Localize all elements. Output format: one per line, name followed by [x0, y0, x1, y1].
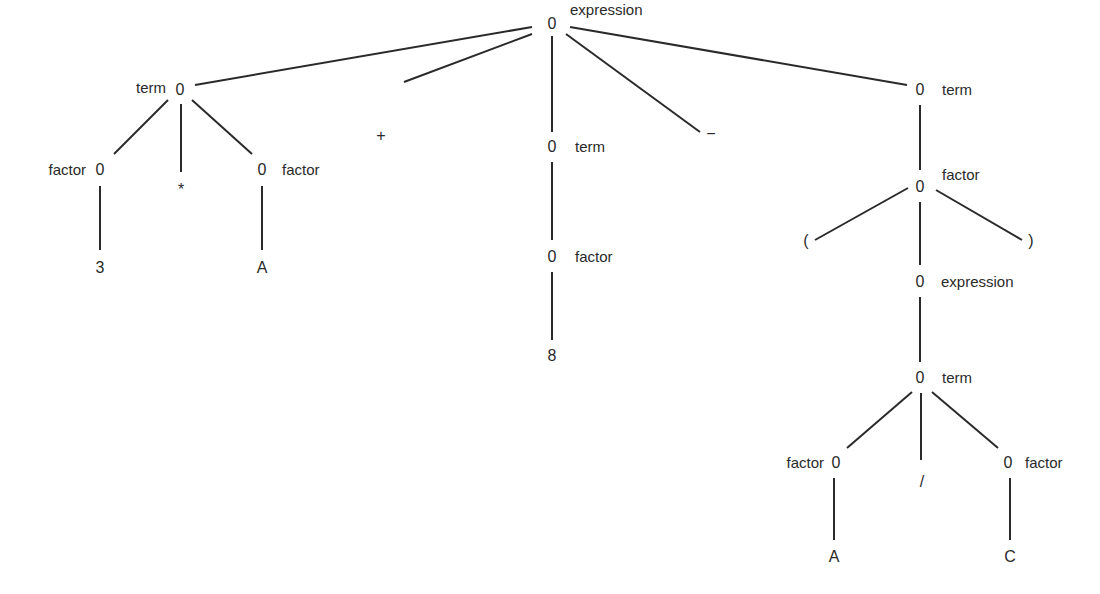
tree-node: 0: [916, 81, 925, 99]
tree-edge: [847, 392, 912, 448]
node-category-label: factor: [575, 248, 613, 266]
node-category-label: factor: [282, 161, 320, 179]
tree-edge: [932, 392, 998, 448]
tree-node: 0: [548, 15, 557, 33]
tree-node: 0: [916, 369, 925, 387]
leaf-token: 8: [548, 347, 557, 365]
leaf-token: 3: [96, 259, 105, 277]
tree-node: 0: [916, 178, 925, 196]
tree-node: 0: [548, 138, 557, 156]
tree-node: 0: [916, 273, 925, 291]
leaf-token: A: [829, 548, 840, 566]
tree-edge: [936, 190, 1022, 240]
tree-edge: [570, 27, 907, 85]
tree-node: 0: [832, 454, 841, 472]
tree-edge: [815, 188, 908, 240]
leaf-token: C: [1004, 548, 1016, 566]
tree-edge: [192, 100, 252, 154]
node-category-label: expression: [570, 1, 643, 19]
tree-edge: [195, 27, 532, 85]
node-category-label: factor: [48, 161, 86, 179]
leaf-token: (: [803, 232, 808, 250]
leaf-token: −: [706, 125, 715, 143]
tree-edge: [404, 34, 532, 82]
leaf-token: A: [257, 259, 268, 277]
tree-node: 0: [258, 161, 267, 179]
node-category-label: term: [942, 369, 972, 387]
node-category-label: term: [136, 79, 166, 97]
leaf-token: /: [920, 473, 924, 491]
node-category-label: expression: [941, 273, 1014, 291]
node-category-label: term: [575, 138, 605, 156]
leaf-token: +: [376, 127, 385, 145]
node-category-label: factor: [1025, 454, 1063, 472]
tree-edge: [566, 34, 700, 132]
leaf-token: ): [1028, 232, 1033, 250]
tree-node: 0: [96, 161, 105, 179]
node-category-label: factor: [942, 166, 980, 184]
tree-edge: [114, 100, 168, 154]
tree-node: 0: [1004, 454, 1013, 472]
leaf-token: *: [178, 181, 184, 199]
node-category-label: factor: [786, 454, 824, 472]
tree-node: 0: [548, 248, 557, 266]
tree-node: 0: [176, 81, 185, 99]
node-category-label: term: [942, 81, 972, 99]
